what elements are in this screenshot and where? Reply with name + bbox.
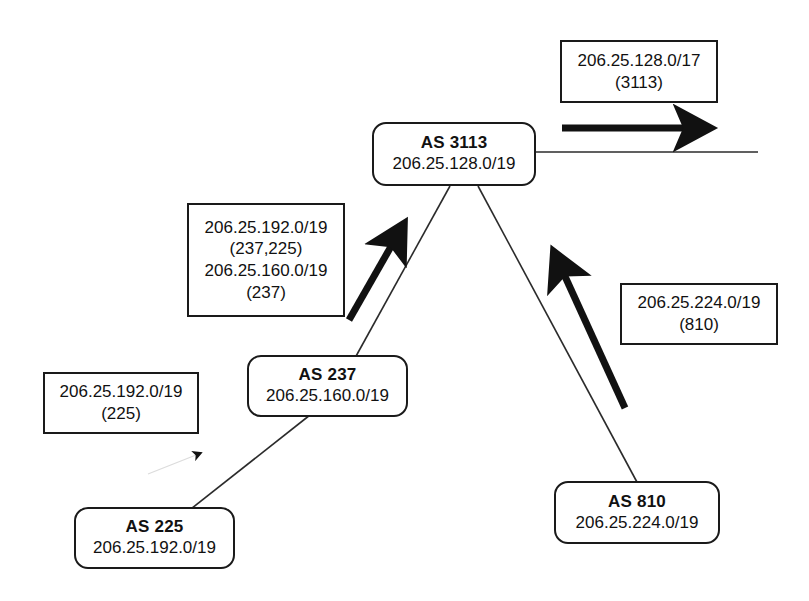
link-237-225 — [182, 415, 310, 516]
as-node-3113[interactable]: AS 3113 206.25.128.0/19 — [372, 122, 536, 186]
annotation-810-to-3113: 206.25.224.0/19 (810) — [620, 283, 778, 345]
annotation-225-to-237: 206.25.192.0/19 (225) — [43, 372, 199, 434]
as-node-3113-prefix: 206.25.128.0/19 — [393, 154, 516, 175]
annotation-237-to-3113-line-2: (237,225) — [230, 238, 303, 260]
link-3113-237 — [355, 186, 450, 358]
arrow-237-to-3113-icon — [349, 243, 393, 320]
arrow-225-to-237-icon — [148, 455, 196, 474]
annotation-3113-upstream-line-2: (3113) — [615, 72, 663, 94]
as-node-237[interactable]: AS 237 206.25.160.0/19 — [247, 355, 408, 417]
annotation-3113-upstream: 206.25.128.0/17 (3113) — [560, 40, 718, 103]
network-diagram: AS 3113 206.25.128.0/19 AS 237 206.25.16… — [0, 0, 809, 601]
as-node-225[interactable]: AS 225 206.25.192.0/19 — [74, 507, 235, 569]
arrow-810-to-3113-icon — [563, 272, 625, 408]
annotation-810-to-3113-line-1: 206.25.224.0/19 — [638, 292, 761, 314]
as-node-810-title: AS 810 — [608, 492, 666, 513]
as-node-810[interactable]: AS 810 206.25.224.0/19 — [554, 481, 720, 544]
as-node-225-title: AS 225 — [126, 517, 184, 538]
link-3113-810 — [478, 186, 638, 484]
annotation-3113-upstream-line-1: 206.25.128.0/17 — [578, 50, 701, 72]
annotation-225-to-237-line-1: 206.25.192.0/19 — [60, 381, 183, 403]
annotation-237-to-3113: 206.25.192.0/19 (237,225) 206.25.160.0/1… — [187, 203, 345, 317]
as-node-810-prefix: 206.25.224.0/19 — [576, 513, 699, 534]
annotation-237-to-3113-line-4: (237) — [246, 282, 286, 304]
as-node-237-prefix: 206.25.160.0/19 — [266, 386, 389, 407]
annotation-225-to-237-line-2: (225) — [101, 403, 141, 425]
as-node-237-title: AS 237 — [299, 365, 357, 386]
as-node-225-prefix: 206.25.192.0/19 — [93, 538, 216, 559]
annotation-237-to-3113-line-3: 206.25.160.0/19 — [205, 260, 328, 282]
annotation-810-to-3113-line-2: (810) — [679, 314, 719, 336]
as-node-3113-title: AS 3113 — [421, 133, 488, 154]
annotation-237-to-3113-line-1: 206.25.192.0/19 — [205, 217, 328, 239]
